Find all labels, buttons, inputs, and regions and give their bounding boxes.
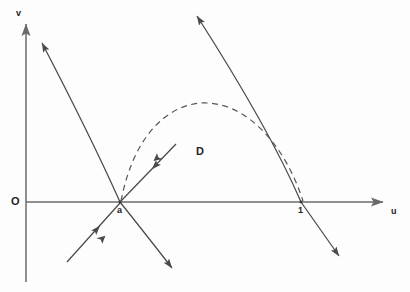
curve-separatrix-upper-left bbox=[42, 43, 120, 202]
diagram-canvas bbox=[0, 0, 410, 292]
flow-direction-arrowheads bbox=[124, 108, 135, 117]
point-marker-a bbox=[119, 201, 122, 204]
phase-plane-figure: v u O a 1 D bbox=[0, 0, 410, 292]
mid-arrow-marks bbox=[122, 150, 131, 157]
v-axis-label: v bbox=[16, 9, 21, 18]
origin-label: O bbox=[11, 196, 20, 207]
curve-separatrix-through-one-lower bbox=[301, 202, 339, 256]
arrowhead-placeholder bbox=[124, 108, 135, 117]
curve-inflow-into-a bbox=[121, 144, 176, 201]
mid-arrow-a bbox=[122, 150, 131, 157]
curve-separatrix-through-one-upper bbox=[197, 16, 301, 202]
arrowhead-inflow-lower-left bbox=[96, 232, 107, 243]
curve-separatrix-lower-right bbox=[120, 202, 172, 268]
point-marker-one bbox=[300, 201, 303, 204]
region-label-d: D bbox=[196, 146, 204, 157]
point-label-a: a bbox=[117, 206, 122, 215]
u-axis-label: u bbox=[391, 207, 397, 216]
curve-heteroclinic-boundary bbox=[121, 103, 303, 201]
trajectory-group bbox=[42, 16, 339, 268]
curve-inflow-lower-left bbox=[67, 203, 120, 262]
point-label-one: 1 bbox=[298, 206, 303, 215]
